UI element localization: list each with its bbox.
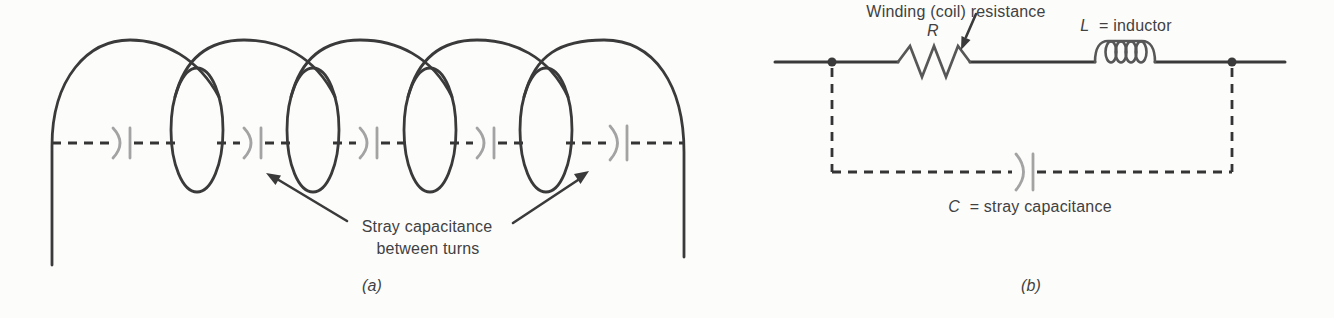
junction-dot-left — [828, 58, 837, 67]
figure-canvas: Stray capacitance between turns (a) — [0, 0, 1334, 318]
stray-capacitor-symbol-circuit — [1016, 154, 1033, 190]
coil-turn — [520, 68, 572, 192]
inductor-label: L = inductor — [1080, 17, 1172, 34]
stray-capacitor-symbols — [113, 126, 627, 160]
coil-turn — [171, 68, 223, 192]
capacitance-symbol-letter: C — [948, 198, 960, 215]
stray-capacitor-symbol — [610, 126, 627, 160]
inductor-symbol — [1095, 41, 1155, 63]
coil-turn — [404, 68, 456, 192]
textbook-figure: Stray capacitance between turns (a) — [0, 0, 1334, 318]
stray-capacitor-symbol — [113, 128, 130, 158]
capacitance-label: C = stray capacitance — [948, 198, 1112, 215]
coil-turn-loops — [171, 68, 572, 192]
junction-dot-right — [1228, 58, 1237, 67]
stray-capacitor-symbol — [244, 128, 261, 158]
panel-a-caption: (a) — [362, 277, 382, 294]
stray-capacitance-annotation-line2: between turns — [376, 240, 479, 257]
resistor-symbol — [898, 46, 970, 77]
inductor-label-text: = inductor — [1099, 17, 1172, 34]
stray-capacitance-annotation-line1: Stray capacitance — [362, 218, 493, 235]
resistance-symbol-label: R — [927, 22, 939, 39]
stray-capacitor-symbol — [477, 128, 494, 158]
equivalent-circuit — [775, 14, 1285, 190]
annotation-arrow-left — [266, 173, 347, 221]
panel-b-caption: (b) — [1021, 277, 1041, 294]
capacitance-label-text: = stray capacitance — [970, 198, 1112, 215]
annotation-arrow-right — [513, 171, 589, 223]
coil-turn — [287, 68, 339, 192]
winding-resistance-label: Winding (coil) resistance — [866, 3, 1045, 20]
annotation-arrows — [266, 171, 589, 223]
inductor-symbol-letter: L — [1080, 17, 1089, 34]
stray-capacitor-symbol — [360, 128, 377, 158]
